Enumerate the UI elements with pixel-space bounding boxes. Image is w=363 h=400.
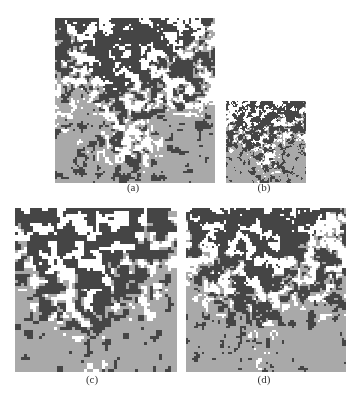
caption-c: (c) <box>77 373 107 385</box>
caption-b: (b) <box>249 181 279 193</box>
map-image-c <box>15 208 177 372</box>
caption-d: (d) <box>249 373 279 385</box>
classification-map-d <box>186 208 346 372</box>
classification-map-b <box>226 101 306 183</box>
classification-map-c <box>15 208 177 372</box>
map-image-b <box>226 101 306 183</box>
caption-a: (a) <box>118 181 148 193</box>
map-image-a <box>55 18 215 183</box>
map-image-d <box>186 208 346 372</box>
classification-map-a <box>55 18 215 183</box>
